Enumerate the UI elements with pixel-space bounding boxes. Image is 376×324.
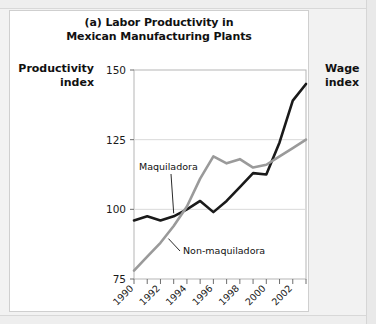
x-tick-label: 1990 — [111, 283, 136, 308]
y-tick-label: 150 — [106, 64, 126, 76]
y-tick-label: 125 — [106, 134, 126, 146]
annotation-label-non-maquiladora: Non-maquiladora — [183, 245, 265, 256]
x-tick-label: 1992 — [137, 283, 162, 308]
annotation-label-maquiladora: Maquiladora — [139, 161, 198, 172]
y-tick-label: 100 — [106, 203, 126, 215]
x-tick-label: 2002 — [269, 283, 294, 308]
x-tick-label: 1996 — [190, 283, 215, 308]
x-tick-label: 1994 — [163, 283, 188, 308]
figure-root: (a) Labor Productivity in Mexican Manufa… — [0, 0, 376, 324]
x-tick-label: 1998 — [216, 283, 241, 308]
y-tick-label: 75 — [113, 273, 126, 285]
x-tick-label: 2000 — [243, 283, 268, 308]
chart-plot-area: 751001251501990199219941996199820002002M… — [0, 0, 376, 324]
